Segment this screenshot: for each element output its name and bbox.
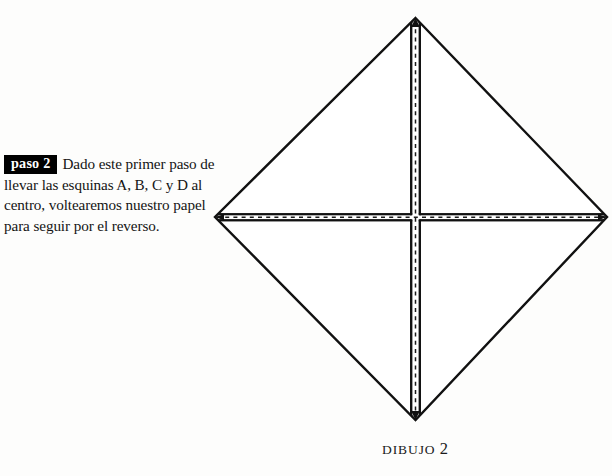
- page-canvas: paso 2Dado este primer paso de llevar la…: [0, 0, 612, 476]
- instruction-paragraph: paso 2Dado este primer paso de llevar la…: [4, 154, 216, 236]
- step-badge: paso 2: [4, 155, 57, 174]
- instruction-block: paso 2Dado este primer paso de llevar la…: [4, 154, 216, 236]
- origami-diagram-figure: [0, 0, 612, 476]
- figure-caption: DIBUJO 2: [315, 439, 515, 459]
- figure-caption-number: 2: [440, 439, 448, 458]
- diamond-fold-diagram-svg: [0, 0, 612, 476]
- figure-caption-word: DIBUJO: [382, 442, 440, 457]
